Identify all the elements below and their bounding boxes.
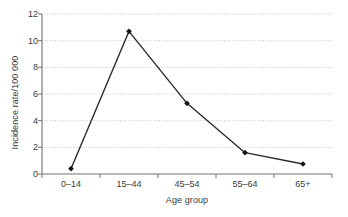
data-line: [71, 31, 303, 168]
x-tick-label: 55–64: [232, 178, 257, 190]
gridlines: [42, 14, 332, 174]
x-axis-label: Age group: [42, 194, 332, 206]
y-axis-tick-labels: 0 2 4 6 8 10 12: [18, 14, 38, 174]
x-tick-label: 0–14: [61, 178, 81, 190]
y-tick-label: 0: [33, 169, 38, 179]
y-tick-label: 12: [28, 9, 38, 19]
y-tick-label: 8: [33, 62, 38, 72]
y-tick-label: 10: [28, 36, 38, 46]
x-axis-tick-labels: 0–14 15–44 45–54 55–64 65+: [42, 178, 332, 192]
y-tick-label: 6: [33, 89, 38, 99]
incidence-rate-line-chart: Incidence rate/100 000 0 2 4 6 8 10 12 0…: [0, 0, 348, 217]
chart-svg: [42, 14, 332, 174]
plot-area: [42, 14, 332, 174]
x-tick-label: 65+: [295, 178, 310, 190]
x-tick-label: 15–44: [116, 178, 141, 190]
data-point-marker: [300, 161, 306, 167]
axis-lines: [42, 14, 332, 174]
y-tick-label: 4: [33, 116, 38, 126]
data-point-marker: [68, 166, 74, 172]
y-tick-label: 2: [33, 142, 38, 152]
data-markers: [68, 29, 306, 172]
x-tick-label: 45–54: [174, 178, 199, 190]
